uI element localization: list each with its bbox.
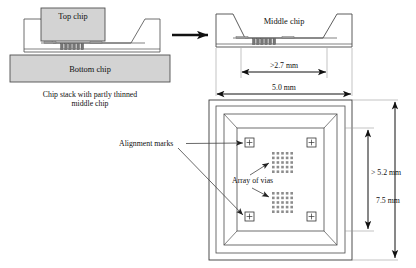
middle-chip-pad-left: [236, 37, 248, 39]
top-chip-label: Top chip: [58, 12, 87, 21]
middle-chip-pad-right: [282, 37, 294, 39]
dim-label-2p7: >2.7 mm: [270, 61, 298, 70]
horizontal-dimensions: >2.7 mm 5.0 mm: [216, 48, 352, 96]
dim-label-5p2: > 5.2 mm: [371, 168, 401, 177]
bottom-chip-label: Bottom chip: [69, 65, 111, 74]
array-of-vias-label: Array of vias: [232, 176, 273, 185]
left-panel-caption-line2: middle chip: [71, 99, 108, 108]
dim-label-7p5: 7.5 mm: [376, 196, 400, 205]
alignment-mark-bottom-left: [245, 212, 254, 221]
middle-chip-label: Middle chip: [264, 17, 305, 26]
middle-chip-plan-view: [209, 100, 352, 260]
bond-pad-right: [90, 41, 102, 43]
alignment-mark-top-right: [307, 138, 316, 147]
left-panel-caption-line1: Chip stack with partly thinned: [43, 90, 138, 99]
chip-stack-cross-section: Top chip Bottom chip Chip stack with par…: [10, 8, 170, 108]
figure-container: Top chip Bottom chip Chip stack with par…: [0, 0, 416, 268]
alignment-marks-leader-top: [186, 143, 243, 144]
alignment-mark-bottom-right: [307, 212, 316, 221]
dim-label-5p0: 5.0 mm: [272, 83, 296, 92]
alignment-marks-label: Alignment marks: [119, 139, 173, 148]
vertical-dimensions: > 5.2 mm 7.5 mm: [345, 100, 401, 260]
middle-chip-cross-section: Middle chip: [216, 14, 352, 47]
alignment-mark-top-left: [245, 138, 254, 147]
bond-pad-left: [44, 41, 56, 43]
